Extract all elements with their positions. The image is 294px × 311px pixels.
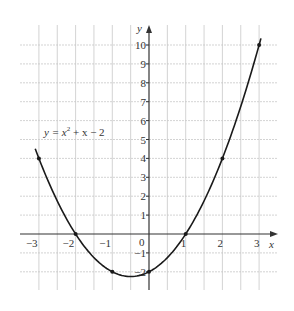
x-axis-arrow-icon xyxy=(270,231,278,237)
y-tick-label: 4 xyxy=(141,152,147,164)
y-tick-label: −1 xyxy=(134,247,146,259)
x-tick-label: 2 xyxy=(217,237,223,249)
y-tick-label: 3 xyxy=(141,171,147,183)
y-tick-label: 1 xyxy=(141,209,147,221)
equation-rhs: + x − 2 xyxy=(70,126,104,138)
y-tick-label: 10 xyxy=(135,39,147,51)
equation-label: y = x2 + x − 2 xyxy=(43,125,105,138)
data-point xyxy=(184,232,188,236)
y-tick-label: 6 xyxy=(141,115,147,127)
x-tick-label: 3 xyxy=(254,237,260,249)
y-axis-arrow-icon xyxy=(146,25,152,33)
y-axis-label: y xyxy=(136,22,142,34)
x-tick-label: −1 xyxy=(99,237,111,249)
data-point xyxy=(220,156,224,160)
y-tick-label: 9 xyxy=(141,58,147,70)
equation-lhs: y = x xyxy=(43,126,67,138)
data-point xyxy=(37,156,41,160)
data-point xyxy=(74,232,78,236)
x-tick-label: −2 xyxy=(63,237,75,249)
data-point xyxy=(147,270,151,274)
data-point xyxy=(110,270,114,274)
x-axis-label: x xyxy=(268,238,274,250)
y-tick-label: 2 xyxy=(141,190,147,202)
y-tick-label: 7 xyxy=(141,96,147,108)
y-tick-label: 8 xyxy=(141,77,147,89)
y-tick-label: 5 xyxy=(141,134,147,146)
x-tick-label: −3 xyxy=(26,237,38,249)
parabola-chart: x y 0 −3−2−1123 10987654321−1−2 y = x2 +… xyxy=(0,0,294,311)
axes: x y 0 xyxy=(20,22,278,290)
data-point xyxy=(257,43,261,47)
